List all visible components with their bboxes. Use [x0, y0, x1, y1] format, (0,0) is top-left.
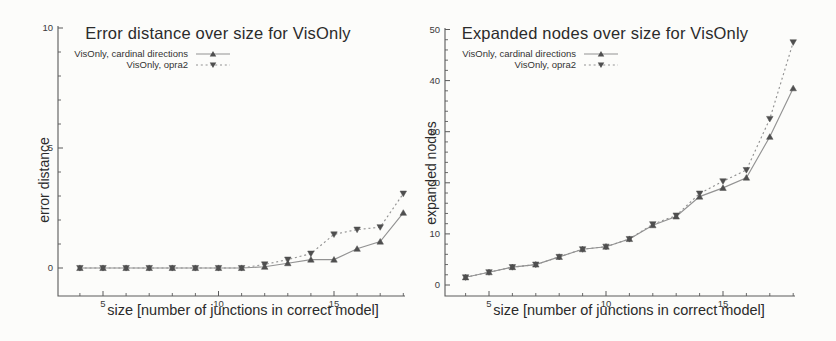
y-tick-label: 50	[429, 24, 440, 35]
x-axis-label: size [number of junctions in correct mod…	[469, 302, 789, 318]
legend-entry-cardinal: VisOnly, cardinal directions	[444, 48, 618, 59]
legend-label: VisOnly, cardinal directions	[444, 48, 576, 59]
data-point-marker	[400, 210, 407, 216]
series-line	[466, 88, 794, 277]
y-axis-label: expanded nodes	[423, 103, 439, 243]
data-point-marker	[720, 179, 727, 185]
series-line	[80, 194, 403, 268]
legend-entry-opra2: VisOnly, opra2	[444, 59, 618, 70]
legend-entry-opra2: VisOnly, opra2	[56, 59, 230, 70]
data-point-marker	[743, 167, 750, 173]
data-point-marker	[790, 40, 797, 46]
legend-label: VisOnly, opra2	[444, 59, 576, 70]
legend-label: VisOnly, opra2	[56, 59, 188, 70]
data-point-marker	[308, 251, 315, 257]
data-point-marker	[767, 134, 774, 140]
legend-entry-cardinal: VisOnly, cardinal directions	[56, 48, 230, 59]
data-point-marker	[400, 191, 407, 197]
y-tick-label: 0	[435, 279, 440, 290]
y-tick-label: 0	[48, 262, 53, 273]
y-tick-label: 10	[42, 22, 53, 33]
data-point-marker	[767, 116, 774, 122]
expanded-nodes-chart-panel: 0102030405051015 Expanded nodes over siz…	[418, 0, 836, 341]
legend-line-sample-icon	[196, 49, 230, 59]
legend-line-sample-icon	[196, 60, 230, 70]
figure-two-line-charts: 051051015 Error distance over size for V…	[0, 0, 836, 341]
data-point-marker	[285, 257, 292, 263]
legend-label: VisOnly, cardinal directions	[56, 48, 188, 59]
legend: VisOnly, cardinal directions VisOnly, op…	[56, 48, 230, 70]
data-point-marker	[377, 225, 384, 231]
chart-title: Expanded nodes over size for VisOnly	[455, 24, 755, 43]
y-tick-label: 40	[429, 75, 440, 86]
data-point-marker	[790, 85, 797, 91]
x-axis-label: size [number of junctions in correct mod…	[83, 302, 403, 318]
chart-title: Error distance over size for VisOnly	[68, 24, 368, 43]
series-line	[80, 213, 403, 268]
data-point-marker	[720, 185, 727, 191]
legend: VisOnly, cardinal directions VisOnly, op…	[444, 48, 618, 70]
data-point-marker	[743, 175, 750, 181]
legend-line-sample-icon	[584, 60, 618, 70]
legend-line-sample-icon	[584, 49, 618, 59]
error-distance-chart-panel: 051051015 Error distance over size for V…	[0, 0, 418, 341]
y-axis-label: error distance	[36, 110, 52, 250]
